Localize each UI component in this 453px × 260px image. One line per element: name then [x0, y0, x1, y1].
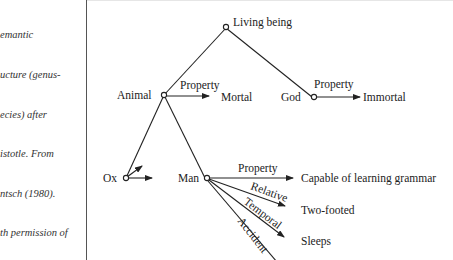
- target-capable-of-learning-grammar: Capable of learning grammar: [301, 172, 436, 185]
- node-animal: [161, 92, 166, 97]
- edge-label-god-property: Property: [314, 78, 354, 91]
- node-man: [204, 175, 209, 180]
- label-god: God: [281, 91, 301, 103]
- label-man: Man: [178, 172, 199, 184]
- edge-label-man-property: Property: [238, 162, 278, 175]
- edge-label-animal-property: Property: [180, 79, 220, 92]
- target-two-footed: Two-footed: [301, 204, 355, 216]
- label-ox: Ox: [103, 172, 117, 184]
- semantic-tree-diagram: Living being Animal God Ox Man Property …: [0, 0, 453, 260]
- node-living-being: [223, 24, 228, 29]
- node-god: [311, 94, 316, 99]
- label-living-being: Living being: [233, 16, 292, 29]
- label-animal: Animal: [117, 89, 152, 101]
- target-sleeps: Sleeps: [301, 235, 332, 248]
- target-mortal: Mortal: [221, 91, 252, 103]
- target-immortal: Immortal: [363, 91, 406, 103]
- node-ox: [123, 175, 128, 180]
